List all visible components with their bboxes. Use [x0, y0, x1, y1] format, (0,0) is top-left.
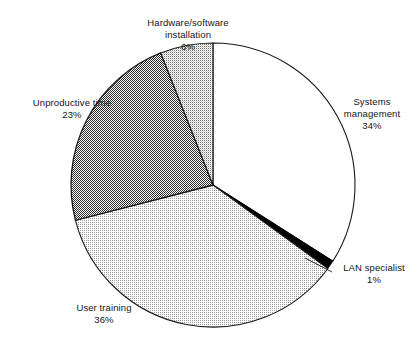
- pie-label-lan-specialist: LAN specialist 1%: [332, 262, 416, 286]
- pie-label-hardware-line1: Hardware/software: [118, 17, 258, 29]
- pie-chart: Hardware/software installation 6% System…: [0, 0, 416, 344]
- pie-label-training-value: 36%: [44, 314, 164, 326]
- pie-label-systems-management: Systems management 34%: [330, 96, 414, 132]
- pie-label-unproductive-value: 23%: [14, 109, 130, 121]
- pie-label-hardware-value: 6%: [118, 41, 258, 53]
- pie-label-systems-line1: Systems: [330, 96, 414, 108]
- pie-slices: [71, 43, 355, 327]
- pie-label-training-line1: User training: [44, 302, 164, 314]
- pie-label-lan-line1: LAN specialist: [332, 262, 416, 274]
- pie-label-user-training: User training 36%: [44, 302, 164, 326]
- pie-label-unproductive-time: Unproductive time 23%: [14, 97, 130, 121]
- pie-label-lan-value: 1%: [332, 274, 416, 286]
- pie-label-systems-line2: management: [330, 108, 414, 120]
- pie-label-unproductive-line1: Unproductive time: [14, 97, 130, 109]
- pie-label-hardware-line2: installation: [118, 29, 258, 41]
- pie-label-systems-value: 34%: [330, 120, 414, 132]
- pie-label-hardware-software-installation: Hardware/software installation 6%: [118, 17, 258, 53]
